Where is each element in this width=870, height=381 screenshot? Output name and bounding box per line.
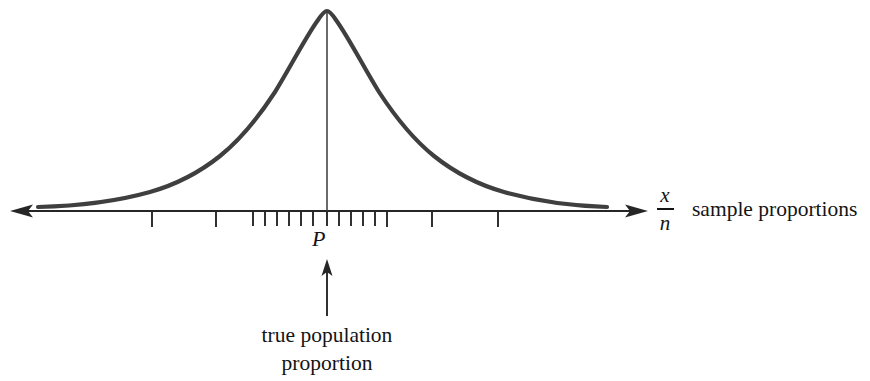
mean-label: P: [312, 228, 325, 250]
x-axis-group: [10, 205, 648, 218]
axis-variable-label: x n: [648, 184, 682, 234]
sampling-distribution-figure: x n sample proportions P true population…: [0, 0, 870, 381]
caption-line-1: true population: [202, 321, 452, 349]
true-population-proportion-arrow: [322, 259, 333, 316]
axis-description-label: sample proportions: [692, 199, 857, 221]
axis-variable-denominator: n: [648, 212, 682, 234]
x-axis-ticks: [152, 211, 498, 227]
axis-variable-numerator: x: [648, 184, 682, 206]
bell-curve: [38, 11, 607, 207]
caption-line-2: proportion: [202, 349, 452, 377]
fraction-bar: [657, 208, 674, 210]
true-population-proportion-caption: true population proportion: [202, 321, 452, 378]
